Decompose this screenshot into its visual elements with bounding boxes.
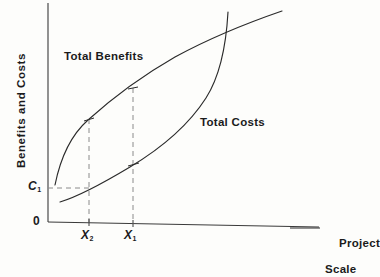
x2-symbol: X xyxy=(81,228,89,242)
x2-axis-label: X2 xyxy=(81,229,93,242)
x-axis-label: Project Scale xyxy=(325,224,380,277)
x-axis-label-line1: Project xyxy=(339,237,380,249)
x1-subscript: 1 xyxy=(133,235,137,242)
origin-label: 0 xyxy=(33,215,40,228)
c1-symbol: C xyxy=(28,179,37,193)
total-benefits-label: Total Benefits xyxy=(64,50,143,63)
total-costs-label: Total Costs xyxy=(200,116,265,129)
x1-symbol: X xyxy=(124,228,132,242)
x1-axis-label: X1 xyxy=(124,229,136,242)
x2-subscript: 2 xyxy=(90,235,94,242)
x-axis-label-line2: Scale xyxy=(325,263,380,276)
c1-subscript: 1 xyxy=(37,186,41,193)
c1-axis-label: C1 xyxy=(28,180,41,193)
total-costs-curve xyxy=(60,12,228,202)
y-axis-label: Benefits and Costs xyxy=(15,35,28,185)
